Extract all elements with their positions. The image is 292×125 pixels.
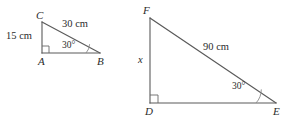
angle-label-e: 30°	[232, 82, 245, 92]
vertex-label-b: B	[97, 56, 104, 67]
measure-label-fe: 90 cm	[203, 42, 229, 53]
measure-label-fd: x	[138, 55, 143, 66]
triangle-def-shape	[150, 18, 276, 103]
vertex-label-d: D	[145, 106, 153, 117]
vertex-label-e: E	[273, 106, 280, 117]
geometry-figure: C A B 15 cm 30 cm 30° F D E x 90 cm 30°	[0, 0, 292, 125]
angle-label-b: 30°	[62, 41, 75, 51]
vertex-label-a: A	[38, 56, 45, 67]
measure-label-ca: 15 cm	[6, 31, 32, 42]
vertex-label-c: C	[36, 10, 43, 21]
measure-label-cb: 30 cm	[62, 19, 88, 30]
vertex-label-f: F	[143, 5, 150, 16]
